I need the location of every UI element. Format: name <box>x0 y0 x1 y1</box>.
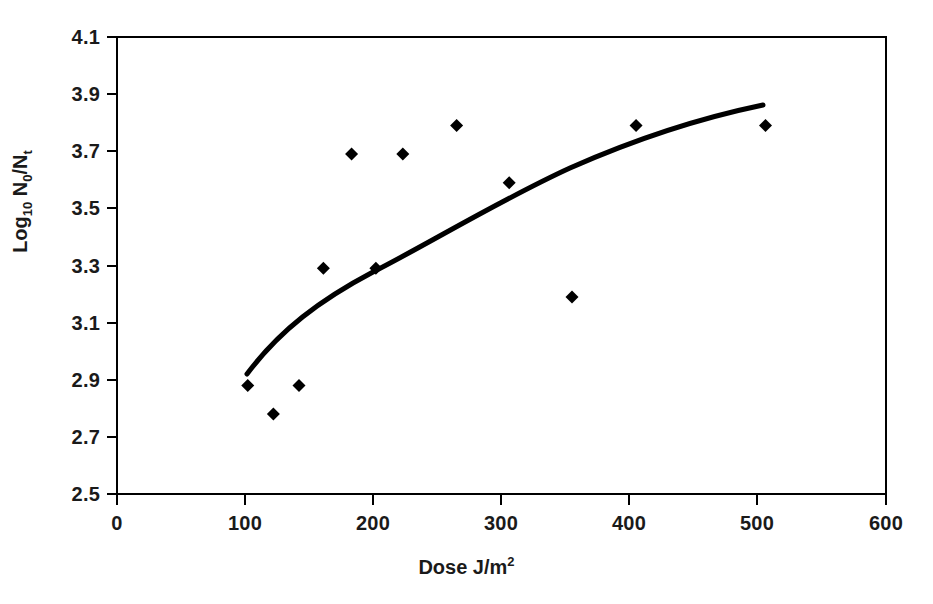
y-tick-label-3.3: 3.3 <box>40 255 100 278</box>
data-point-marker <box>317 262 330 275</box>
y-tick-label-4.1: 4.1 <box>40 26 100 49</box>
chart-figure: 4.1 3.9 3.7 3.5 3.3 3.1 2.9 2.7 2.5 0 10… <box>0 0 933 604</box>
x-axis-title-text: Dose J/m <box>418 556 507 578</box>
x-tick-label-500: 500 <box>740 512 774 535</box>
y-axis-title-nt-sub: t <box>20 150 35 154</box>
x-tick-label-100: 100 <box>228 512 262 535</box>
y-tick-label-3.5: 3.5 <box>40 197 100 220</box>
x-tick-label-600: 600 <box>869 512 903 535</box>
data-point-group <box>241 119 772 420</box>
x-axis-ticks <box>117 494 886 505</box>
data-point-marker <box>345 148 358 161</box>
x-tick-label-400: 400 <box>612 512 646 535</box>
y-axis-title-n0-sub: 0 <box>20 175 35 182</box>
y-axis-title-n: N <box>9 182 31 202</box>
data-point-marker <box>503 176 516 189</box>
data-point-marker <box>292 379 305 392</box>
x-tick-label-200: 200 <box>356 512 390 535</box>
data-point-marker <box>565 290 578 303</box>
y-tick-label-3.7: 3.7 <box>40 140 100 163</box>
axes-box <box>117 37 886 494</box>
data-point-marker <box>396 148 409 161</box>
y-tick-label-2.7: 2.7 <box>40 426 100 449</box>
x-tick-label-0: 0 <box>111 512 122 535</box>
y-axis-title-sep: /N <box>9 155 31 175</box>
y-axis-title-log: Log <box>9 216 31 253</box>
data-point-marker <box>630 119 643 132</box>
y-axis-ticks <box>107 37 117 494</box>
y-tick-label-3.1: 3.1 <box>40 312 100 335</box>
scatter-plot <box>0 0 933 604</box>
y-axis-title: Log10 N0/Nt <box>9 52 32 352</box>
x-axis-title: Dose J/m2 <box>0 556 933 579</box>
data-point-marker <box>759 119 772 132</box>
data-point-marker <box>450 119 463 132</box>
plot-frame <box>117 37 886 494</box>
y-tick-label-2.9: 2.9 <box>40 369 100 392</box>
data-point-marker <box>267 408 280 421</box>
x-tick-label-300: 300 <box>484 512 518 535</box>
data-point-marker <box>241 379 254 392</box>
x-axis-title-exponent: 2 <box>507 554 514 569</box>
y-tick-label-2.5: 2.5 <box>40 483 100 506</box>
y-axis-title-base: 10 <box>20 202 35 216</box>
y-tick-label-3.9: 3.9 <box>40 83 100 106</box>
fitted-curve <box>247 105 763 374</box>
